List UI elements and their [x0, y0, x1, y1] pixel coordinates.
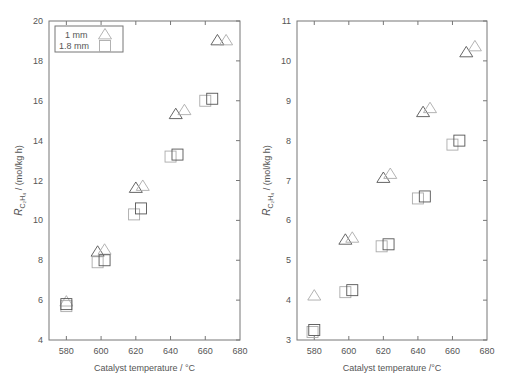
x-tick-label: 680 — [479, 346, 494, 356]
y-tick-label: 9 — [286, 96, 291, 106]
triangle-marker — [178, 104, 191, 114]
y-tick-label: 16 — [33, 96, 43, 106]
x-tick-label: 620 — [128, 346, 143, 356]
y-tick-label: 5 — [286, 255, 291, 265]
triangle-marker — [417, 106, 430, 116]
y-tick-label: 11 — [282, 16, 291, 26]
series-1-mm — [308, 40, 482, 300]
x-tick-label: 620 — [376, 346, 391, 356]
x-tick-label: 580 — [307, 346, 322, 356]
left-scatter-panel: 580600620640660680468101214161820Catalys… — [13, 16, 248, 373]
y-tick-label: 20 — [33, 16, 43, 26]
plot-frame — [297, 21, 487, 340]
legend: 1 mm1.8 mm — [55, 26, 123, 52]
y-axis-label: RC₂H₄ / (mol/kg h) — [13, 145, 26, 215]
square-marker — [136, 203, 147, 214]
figure: 580600620640660680468101214161820Catalys… — [0, 0, 507, 380]
square-marker — [129, 209, 140, 220]
legend-label: 1.8 mm — [59, 41, 89, 51]
y-tick-label: 12 — [33, 176, 43, 186]
y-tick-label: 10 — [281, 56, 291, 66]
y-tick-label: 7 — [286, 176, 291, 186]
y-tick-label: 6 — [286, 215, 291, 225]
triangle-marker — [468, 40, 481, 50]
x-tick-label: 640 — [163, 346, 178, 356]
legend-label: 1 mm — [65, 30, 88, 40]
triangle-marker — [424, 102, 437, 112]
y-tick-label: 6 — [38, 295, 43, 305]
x-tick-label: 600 — [94, 346, 109, 356]
right-scatter-panel: 58060062064066068034567891011Catalyst te… — [261, 16, 495, 373]
square-marker — [454, 135, 465, 146]
triangle-marker — [460, 46, 473, 56]
y-tick-label: 3 — [286, 335, 291, 345]
x-tick-label: 580 — [59, 346, 74, 356]
triangle-marker — [169, 108, 182, 118]
y-tick-label: 14 — [33, 136, 43, 146]
y-tick-label: 8 — [38, 255, 43, 265]
y-tick-label: 8 — [286, 136, 291, 146]
x-axis-label: Catalyst temperature /°C — [343, 363, 442, 373]
y-axis-label: RC₂H₄ / (mol/kg h) — [261, 145, 274, 215]
x-tick-label: 640 — [410, 346, 425, 356]
y-tick-label: 10 — [33, 215, 43, 225]
y-tick-label: 4 — [38, 335, 43, 345]
x-tick-label: 600 — [341, 346, 356, 356]
x-tick-label: 660 — [198, 346, 213, 356]
plot-frame — [49, 21, 240, 340]
series-1-8-mm — [307, 135, 465, 337]
series-1-mm — [60, 34, 233, 306]
x-tick-label: 660 — [445, 346, 460, 356]
x-tick-label: 680 — [232, 346, 247, 356]
y-tick-label: 18 — [33, 56, 43, 66]
triangle-marker — [308, 290, 321, 300]
series-1-8-mm — [61, 93, 218, 311]
triangle-marker — [384, 168, 397, 178]
triangle-marker — [377, 172, 390, 182]
triangle-marker — [220, 34, 233, 44]
triangle-marker — [211, 34, 224, 44]
square-marker — [447, 139, 458, 150]
y-tick-label: 4 — [286, 295, 291, 305]
x-axis-label: Catalyst temperature / °C — [94, 363, 196, 373]
